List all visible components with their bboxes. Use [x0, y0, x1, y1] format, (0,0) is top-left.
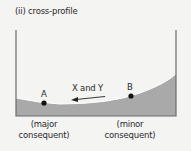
point-a-label: A: [41, 89, 47, 99]
point-b-caption: (minor consequent): [100, 119, 160, 141]
point-a-caption: (major consequent): [14, 119, 74, 141]
flow-arrow-head-icon: [71, 97, 78, 102]
point-b-caption-line1: (minor: [100, 119, 160, 130]
point-b-label: B: [127, 82, 133, 92]
valley-fill: [16, 74, 176, 116]
point-b-marker: [128, 93, 133, 98]
point-a-caption-line2: consequent): [14, 130, 74, 141]
flow-arrow-shaft: [76, 97, 105, 100]
point-a-marker: [41, 100, 46, 105]
point-b-caption-line2: consequent): [100, 130, 160, 141]
arrow-label: X and Y: [72, 83, 103, 93]
point-a-caption-line1: (major: [14, 119, 74, 130]
